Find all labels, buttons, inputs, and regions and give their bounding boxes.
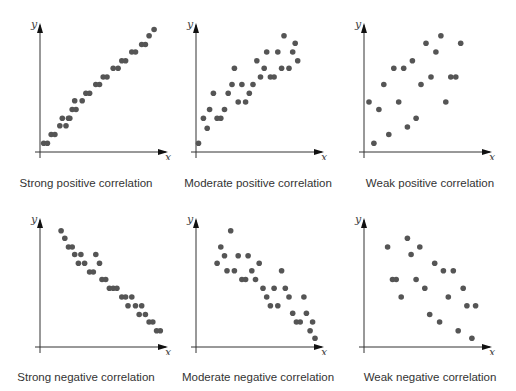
data-point [218, 116, 224, 122]
panel-strong-negative: yx Strong negative correlation [0, 195, 172, 391]
data-point [82, 261, 88, 267]
data-point [243, 277, 249, 283]
data-point [458, 41, 464, 47]
data-point [423, 41, 429, 47]
data-point [78, 252, 84, 258]
data-point [381, 82, 387, 88]
x-axis-label: x [165, 346, 172, 355]
data-point [103, 277, 109, 283]
data-point [243, 99, 249, 105]
data-point [139, 303, 145, 309]
data-point [133, 303, 139, 309]
data-point [469, 336, 475, 342]
data-point [218, 244, 224, 250]
data-point [271, 286, 277, 292]
data-point [143, 312, 149, 318]
data-point [72, 252, 78, 258]
data-point [115, 66, 121, 72]
data-point [453, 74, 459, 80]
data-point [250, 82, 256, 88]
scatter-plot: yx [172, 195, 344, 355]
data-point [405, 124, 411, 130]
panel-caption: Weak positive correlation [344, 177, 516, 189]
x-axis-label: x [321, 346, 328, 355]
data-point [114, 286, 120, 292]
data-point [295, 58, 301, 64]
data-point [366, 99, 372, 105]
data-point [235, 99, 241, 105]
data-point [292, 41, 298, 47]
x-axis-label: x [489, 346, 496, 355]
data-point [391, 66, 397, 72]
data-point [268, 303, 274, 309]
data-point [283, 286, 289, 292]
data-point [204, 126, 210, 132]
data-point [69, 244, 75, 250]
data-point [201, 116, 207, 122]
data-point [258, 74, 264, 80]
data-point [214, 261, 220, 267]
y-axis-label: y [30, 18, 38, 31]
data-point [196, 141, 202, 147]
data-point [211, 91, 217, 97]
data-point [58, 228, 64, 234]
data-point [232, 66, 238, 72]
data-point [143, 42, 149, 48]
data-point [271, 74, 277, 80]
data-point [245, 253, 251, 259]
data-point [260, 286, 266, 292]
data-point [110, 66, 116, 72]
data-point [225, 91, 231, 97]
data-point [207, 107, 213, 113]
data-point [239, 82, 245, 88]
data-point [253, 277, 259, 283]
data-point [133, 49, 139, 55]
scatter-plot: yx [0, 0, 172, 160]
data-point [125, 303, 131, 309]
data-point [247, 91, 253, 97]
data-point [222, 107, 228, 113]
data-point [413, 277, 419, 283]
data-point [254, 58, 260, 64]
data-point [97, 82, 103, 88]
data-point [432, 261, 438, 267]
data-point [398, 294, 404, 300]
data-point [222, 253, 228, 259]
y-axis-label: y [30, 213, 38, 226]
y-axis-arrow-icon [361, 23, 367, 33]
data-point [473, 303, 479, 309]
data-point [104, 74, 110, 80]
panel-moderate-negative: yx Moderate negative correlation [172, 195, 344, 391]
data-point [228, 228, 234, 234]
panel-caption: Strong positive correlation [0, 177, 172, 189]
data-point [249, 268, 255, 274]
data-point [87, 91, 93, 97]
data-point [422, 286, 428, 292]
data-point [371, 141, 377, 147]
data-point [136, 312, 142, 318]
x-axis-label: x [321, 151, 328, 160]
y-axis-label: y [354, 213, 362, 226]
data-point [91, 269, 97, 275]
y-axis-label: y [186, 213, 194, 226]
y-axis-arrow-icon [193, 23, 199, 33]
y-axis-arrow-icon [193, 218, 199, 228]
data-point [396, 99, 402, 105]
data-point [401, 66, 407, 72]
data-point [428, 74, 434, 80]
data-point [224, 268, 230, 274]
data-point [275, 49, 281, 55]
data-point [417, 244, 423, 250]
data-point [72, 98, 78, 104]
data-point [264, 49, 270, 55]
data-point [123, 294, 129, 300]
data-point [393, 277, 399, 283]
data-point [150, 319, 156, 325]
panel-weak-negative: yx Weak negative correlation [344, 195, 516, 391]
data-point [281, 33, 287, 39]
panel-caption: Moderate positive correlation [172, 177, 344, 189]
data-point [427, 312, 433, 318]
data-point [413, 116, 419, 122]
data-point [437, 319, 443, 325]
data-point [151, 27, 157, 33]
